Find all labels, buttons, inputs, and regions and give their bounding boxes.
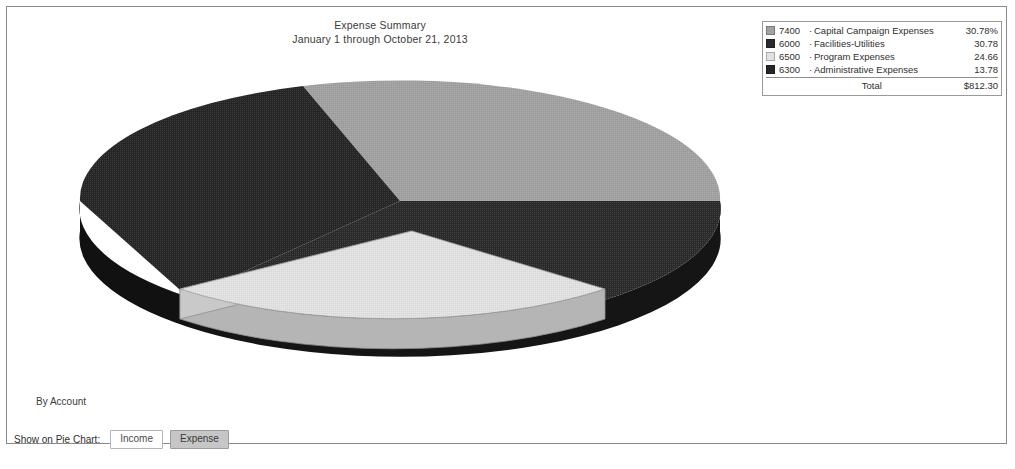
legend-separator: · (807, 63, 814, 76)
expense-summary-report: Expense Summary January 1 through Octobe… (0, 0, 1015, 469)
controls-label: Show on Pie Chart: (14, 434, 100, 445)
legend-account-number: 6000 (779, 37, 807, 50)
chart-legend: 7400 · Capital Campaign Expenses 30.78% … (762, 21, 1002, 96)
legend-total-label: Total (766, 79, 964, 93)
legend-account-name: Capital Campaign Expenses (814, 24, 960, 37)
legend-swatch-icon (766, 26, 775, 35)
pie-chart-controls: Show on Pie Chart: Income Expense (14, 430, 229, 449)
legend-separator: · (807, 50, 814, 63)
legend-account-name: Facilities-Utilities (814, 37, 968, 50)
legend-account-number: 7400 (779, 24, 807, 37)
legend-account-number: 6500 (779, 50, 807, 63)
legend-account-name: Administrative Expenses (814, 63, 968, 76)
legend-separator: · (807, 37, 814, 50)
legend-separator: · (807, 24, 814, 37)
legend-row[interactable]: 6300 · Administrative Expenses 13.78 (766, 63, 998, 76)
legend-total-row: Total $812.30 (766, 78, 998, 93)
income-button[interactable]: Income (110, 430, 163, 449)
pie-chart (60, 68, 780, 378)
legend-row[interactable]: 7400 · Capital Campaign Expenses 30.78% (766, 24, 998, 37)
legend-account-number: 6300 (779, 63, 807, 76)
legend-value: 30.78% (960, 24, 998, 37)
legend-row[interactable]: 6500 · Program Expenses 24.66 (766, 50, 998, 63)
legend-swatch-icon (766, 52, 775, 61)
page-subtitle: January 1 through October 21, 2013 (0, 32, 760, 46)
legend-account-name: Program Expenses (814, 50, 968, 63)
legend-swatch-icon (766, 39, 775, 48)
page-title: Expense Summary (0, 18, 760, 32)
legend-total-value: $812.30 (964, 79, 998, 93)
grouping-label: By Account (36, 396, 86, 407)
pie-chart-svg (60, 68, 780, 378)
legend-value: 24.66 (968, 50, 998, 63)
chart-title-block: Expense Summary January 1 through Octobe… (0, 18, 760, 46)
expense-button[interactable]: Expense (170, 430, 229, 449)
legend-row[interactable]: 6000 · Facilities-Utilities 30.78 (766, 37, 998, 50)
legend-value: 30.78 (968, 37, 998, 50)
legend-value: 13.78 (968, 63, 998, 76)
